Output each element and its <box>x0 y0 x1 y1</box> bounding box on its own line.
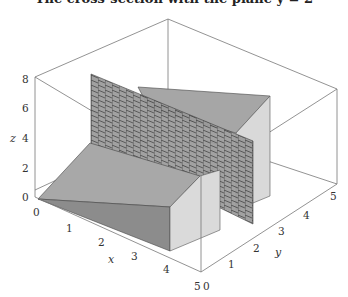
svg-text:3: 3 <box>131 250 138 262</box>
svg-text:1: 1 <box>66 222 73 234</box>
svg-text:y: y <box>274 246 282 259</box>
svg-text:8: 8 <box>22 73 29 85</box>
svg-text:2: 2 <box>98 236 105 248</box>
svg-text:5: 5 <box>330 190 337 202</box>
svg-text:6: 6 <box>22 102 29 114</box>
svg-text:1: 1 <box>228 258 235 270</box>
svg-text:2: 2 <box>22 162 29 174</box>
svg-text:4: 4 <box>22 132 29 144</box>
svg-text:4: 4 <box>163 263 170 275</box>
svg-text:4: 4 <box>303 209 310 221</box>
svg-text:2: 2 <box>253 242 260 254</box>
svg-text:0: 0 <box>33 206 40 218</box>
svg-text:z: z <box>9 132 16 145</box>
plot-3d: 0 2 4 6 8 z 0 1 2 3 4 5 x 0 1 2 3 4 5 y <box>0 0 348 297</box>
svg-text:x: x <box>108 253 115 266</box>
svg-text:3: 3 <box>278 225 285 237</box>
svg-text:0: 0 <box>22 191 29 203</box>
z-axis: 0 2 4 6 8 z <box>9 73 29 203</box>
svg-text:5: 5 <box>194 280 201 292</box>
svg-text:0: 0 <box>203 280 210 292</box>
